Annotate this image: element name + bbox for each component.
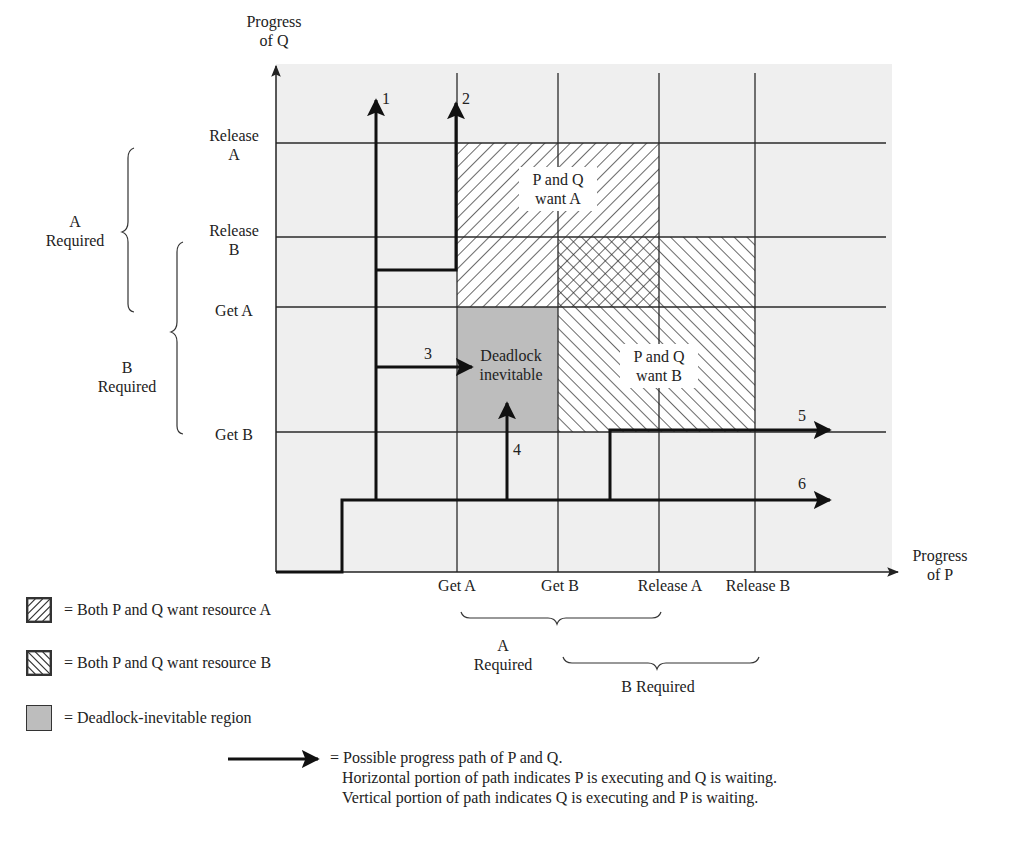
brace-label: A xyxy=(458,636,548,655)
legend-item-want-b: = Both P and Q want resource B xyxy=(26,650,271,676)
region-label-line: want B xyxy=(620,366,698,385)
region-overlap-cross xyxy=(558,237,659,307)
y-tick-release-b: Release B xyxy=(194,221,274,259)
hatch-forward-icon xyxy=(26,597,52,623)
path-label-5: 5 xyxy=(798,406,806,425)
brace-label: B xyxy=(82,358,172,377)
region-label-line: P and Q xyxy=(620,347,698,366)
brace-a-required-x xyxy=(461,612,661,624)
region-label-line: Deadlock xyxy=(466,346,556,365)
brace-label: Required xyxy=(458,655,548,674)
brace-label: A xyxy=(30,212,120,231)
legend-item-want-a: = Both P and Q want resource A xyxy=(26,597,271,623)
path-label-3: 3 xyxy=(424,344,432,363)
legend-item-deadlock: = Deadlock-inevitable region xyxy=(26,705,252,731)
y-brace-b-required-label: B Required xyxy=(82,358,172,396)
region-label-deadlock: Deadlock inevitable xyxy=(466,346,556,384)
y-axis-title-line2: of Q xyxy=(234,31,314,50)
region-label-line: inevitable xyxy=(466,365,556,384)
solid-gray-icon xyxy=(26,705,52,731)
y-tick-label: A xyxy=(194,145,274,164)
brace-b-required-x xyxy=(563,657,759,669)
x-axis-title-line1: Progress xyxy=(900,546,980,565)
hatch-backward-icon xyxy=(26,650,52,676)
path-legend-line3: Vertical portion of path indicates Q is … xyxy=(330,788,777,808)
path-legend-line1: = Possible progress path of P and Q. xyxy=(330,748,777,768)
y-brace-a-required-label: A Required xyxy=(30,212,120,250)
path-label-2: 2 xyxy=(462,89,470,108)
x-tick-get-b: Get B xyxy=(520,576,600,595)
x-axis-title-line2: of P xyxy=(900,565,980,584)
y-tick-label: Get A xyxy=(194,301,274,320)
brace-label: Required xyxy=(30,231,120,250)
brace-b-required-y xyxy=(171,242,183,434)
x-brace-b-required-label: B Required xyxy=(598,677,718,696)
legend-label: = Both P and Q want resource A xyxy=(64,601,271,619)
legend-label: = Both P and Q want resource B xyxy=(64,654,271,672)
x-tick-release-b: Release B xyxy=(703,576,813,595)
path-legend: = Possible progress path of P and Q. Hor… xyxy=(330,748,777,808)
y-tick-release-a: Release A xyxy=(194,126,274,164)
region-label-line: want A xyxy=(519,189,597,208)
y-axis-title-line1: Progress xyxy=(234,12,314,31)
path-label-6: 6 xyxy=(798,474,806,493)
y-axis-title: Progress of Q xyxy=(234,12,314,50)
x-brace-a-required-label: A Required xyxy=(458,636,548,674)
legend-label: = Deadlock-inevitable region xyxy=(64,709,252,727)
y-tick-get-b: Get B xyxy=(194,425,274,444)
region-label-want-b: P and Q want B xyxy=(620,347,698,385)
x-tick-get-a: Get A xyxy=(417,576,497,595)
brace-a-required-y xyxy=(122,148,134,312)
region-label-want-a: P and Q want A xyxy=(519,170,597,208)
y-tick-label: Get B xyxy=(194,425,274,444)
y-tick-label: Release xyxy=(194,126,274,145)
path-legend-line2: Horizontal portion of path indicates P i… xyxy=(330,768,777,788)
y-tick-label: Release xyxy=(194,221,274,240)
y-tick-get-a: Get A xyxy=(194,301,274,320)
path-label-4: 4 xyxy=(513,440,521,459)
region-label-line: P and Q xyxy=(519,170,597,189)
y-tick-label: B xyxy=(194,240,274,259)
path-label-1: 1 xyxy=(382,89,390,108)
brace-label: Required xyxy=(82,377,172,396)
x-axis-title: Progress of P xyxy=(900,546,980,584)
